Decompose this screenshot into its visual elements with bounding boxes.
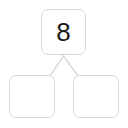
part-box-left[interactable] <box>9 75 55 118</box>
whole-box[interactable]: 8 <box>41 9 86 55</box>
connector-line-right <box>64 56 79 76</box>
whole-value: 8 <box>56 19 70 45</box>
part-box-right[interactable] <box>73 75 119 118</box>
connector-line-left <box>50 56 64 76</box>
number-bond-diagram: 8 <box>0 0 128 128</box>
